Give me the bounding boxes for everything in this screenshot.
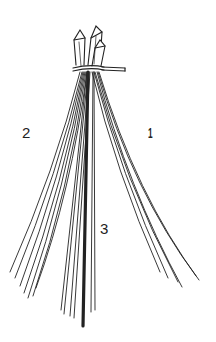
bundle-1-label: 1 bbox=[148, 125, 153, 140]
bundle-2-strands bbox=[10, 72, 87, 298]
bundle-1-strands bbox=[92, 72, 199, 287]
bundle-tips bbox=[74, 26, 105, 66]
strand-bundle-illustration: 2 1 3 bbox=[0, 0, 216, 342]
bundle-3-label: 3 bbox=[100, 221, 108, 236]
center-rod bbox=[83, 72, 88, 326]
tie-cord bbox=[73, 66, 125, 71]
bundle-drawing bbox=[0, 0, 216, 342]
bundle-2-label: 2 bbox=[22, 125, 30, 140]
